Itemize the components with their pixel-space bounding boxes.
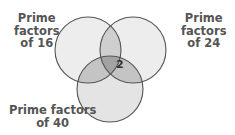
label-16-line1: Prime: [14, 12, 60, 25]
label-24-line3: of 24: [181, 37, 227, 50]
label-24: Prime factors of 24: [181, 12, 227, 50]
label-24-line1: Prime: [181, 12, 227, 25]
label-16: Prime factors of 16: [14, 12, 60, 50]
label-40: Prime factors of 40: [9, 104, 96, 129]
label-40-line1: Prime factors: [9, 104, 96, 117]
label-40-line2: of 40: [9, 117, 96, 130]
center-value: 2: [116, 58, 124, 71]
label-16-line3: of 16: [14, 37, 60, 50]
